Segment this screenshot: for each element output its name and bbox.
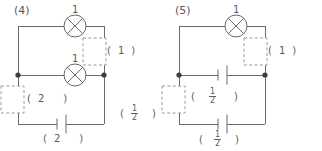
paren-open: ( (199, 135, 203, 145)
lamp-icon-top (64, 15, 86, 37)
circuit-diagram-5: (5) (161, 0, 322, 151)
lamp-icon-middle (64, 64, 86, 86)
fraction-denominator: 2 (214, 139, 221, 148)
battery-annotation: ( 2 ) (43, 134, 83, 144)
fraction-numerator: 1 (131, 105, 138, 113)
fraction-one-half: 1 2 (131, 105, 138, 122)
paren-open: ( (268, 46, 272, 56)
paren-open: ( (107, 46, 111, 56)
paren-close: ) (79, 134, 83, 144)
battery-fraction-annotation: ( 1 2 ) (199, 131, 239, 148)
right-box-annotation: ( 1 ) (268, 46, 296, 56)
paren-close: ) (152, 109, 156, 119)
top-lamp-value: 1 (72, 5, 78, 15)
paren-value: 1 (118, 46, 124, 56)
paren-open: ( (27, 94, 31, 104)
fraction-one-half: 1 2 (214, 131, 221, 148)
circuit-5-schematic (161, 0, 322, 151)
paren-value: 1 (279, 46, 285, 56)
circuit-4-schematic (0, 0, 161, 151)
paren-value: 2 (54, 134, 60, 144)
paren-open: ( (120, 109, 124, 119)
circuit-diagram-4: (4) (0, 0, 161, 151)
left-box-annotation: ( 2 ) (27, 94, 67, 104)
placeholder-box-right (244, 38, 267, 65)
fraction-denominator: 2 (209, 96, 216, 105)
paren-open: ( (43, 134, 47, 144)
fraction-one-half: 1 2 (209, 88, 216, 105)
paren-close: ) (292, 46, 296, 56)
placeholder-box-left (1, 86, 24, 113)
lamp-icon-top (225, 15, 247, 37)
battery-icon-middle (218, 66, 227, 85)
placeholder-box-left (162, 86, 185, 113)
battery-icon-bottom (57, 115, 66, 134)
paren-close: ) (235, 135, 239, 145)
paren-value: 2 (38, 94, 44, 104)
fraction-denominator: 2 (131, 113, 138, 122)
diagram-canvas: (4) (0, 0, 322, 151)
top-lamp-value: 1 (233, 5, 239, 15)
paren-open: ( (191, 92, 195, 102)
right-box-annotation: ( 1 ) (107, 46, 135, 56)
paren-close: ) (234, 92, 238, 102)
placeholder-box-right (83, 38, 106, 65)
paren-close: ) (131, 46, 135, 56)
paren-close: ) (63, 94, 67, 104)
corner-fraction-annotation: ( 1 2 ) (120, 105, 156, 122)
fraction-numerator: 1 (214, 131, 221, 139)
middle-fraction-annotation: ( 1 2 ) (191, 88, 238, 105)
middle-lamp-value: 1 (72, 54, 78, 64)
fraction-numerator: 1 (209, 88, 216, 96)
